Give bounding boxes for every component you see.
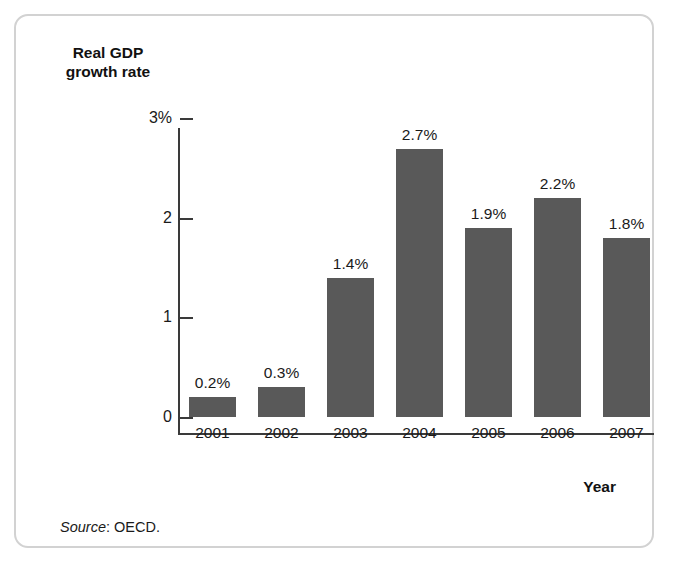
x-tick-label-2003: 2003	[321, 424, 381, 442]
y-tick-label-1: 1	[114, 308, 172, 326]
bar-value-2004: 2.7%	[390, 126, 450, 144]
y-tick-1	[180, 317, 193, 319]
bar-2007	[603, 238, 650, 417]
y-tick-label-0: 0	[114, 408, 172, 426]
bar-value-2003: 1.4%	[321, 255, 381, 273]
bar-value-2002: 0.3%	[252, 364, 312, 382]
x-axis-title: Year	[583, 478, 616, 496]
x-tick-label-2001: 2001	[183, 424, 243, 442]
x-tick-label-2005: 2005	[459, 424, 519, 442]
bar-value-2006: 2.2%	[528, 175, 588, 193]
y-tick-label-3: 3%	[114, 109, 172, 127]
bar-2005	[465, 228, 512, 417]
y-tick-2	[180, 218, 193, 220]
figure-frame: Real GDPgrowth rate 3% 2 1 0 0.2% 0.3% 1…	[14, 14, 654, 548]
x-tick-label-2002: 2002	[252, 424, 312, 442]
source-label: Source	[60, 519, 106, 535]
bar-2002	[258, 387, 305, 417]
bar-value-2001: 0.2%	[183, 374, 243, 392]
x-tick-label-2006: 2006	[528, 424, 588, 442]
y-tick-label-2: 2	[114, 209, 172, 227]
source-value: : OECD.	[106, 519, 160, 535]
bar-2004	[396, 149, 443, 417]
bar-value-2005: 1.9%	[459, 205, 519, 223]
x-tick-label-2004: 2004	[390, 424, 450, 442]
chart-title-line1: Real GDP	[73, 44, 144, 61]
x-tick-label-2007: 2007	[597, 424, 657, 442]
y-tick-3	[180, 118, 193, 120]
bar-2006	[534, 198, 581, 417]
bar-2003	[327, 278, 374, 418]
chart-title: Real GDPgrowth rate	[46, 43, 170, 81]
source-note: Source: OECD.	[60, 519, 160, 535]
y-axis-line	[178, 128, 180, 435]
chart-title-line2: growth rate	[66, 63, 150, 80]
y-tick-0	[180, 417, 193, 419]
bar-value-2007: 1.8%	[597, 215, 657, 233]
bar-2001	[189, 397, 236, 417]
